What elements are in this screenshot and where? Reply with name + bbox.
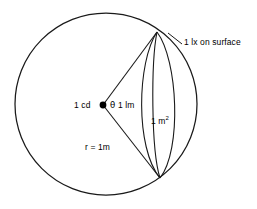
lux-leader-line [168,33,182,44]
area-value: 1 m [151,116,165,126]
luminous-flux-label: 1 lm [118,100,134,110]
area-exponent: 2 [165,115,168,121]
illuminance-label: 1 lx on surface [184,37,241,47]
luminous-intensity-diagram: 1 lx on surface 1 cd θ 1 lm 1 m2 r = 1m [0,0,257,209]
angle-theta-label: θ [110,100,115,110]
area-label: 1 m2 [151,116,169,126]
point-source-dot [100,102,107,109]
luminous-intensity-label: 1 cd [74,100,90,110]
cap-left-arc [142,32,160,178]
cap-middle-arc [153,32,160,178]
radius-label: r = 1m [85,142,110,152]
cap-right-arc [157,32,175,178]
radius-line-upper [103,32,157,105]
